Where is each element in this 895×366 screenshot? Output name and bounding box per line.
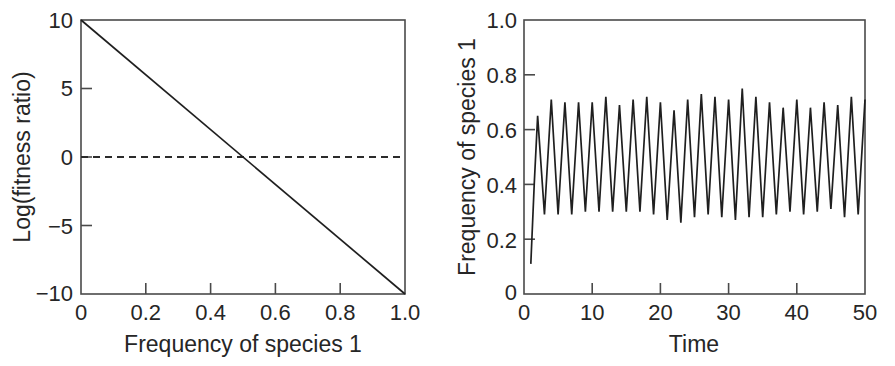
right-x-tickmarks bbox=[592, 283, 797, 294]
figure-two-panel-chart: Log(fitness ratio) 10 5 0 −5 −10 bbox=[0, 0, 895, 366]
left-x-tick-label-04: 0.4 bbox=[195, 300, 226, 325]
left-y-tick-label-0: 0 bbox=[61, 145, 73, 170]
left-y-axis-title: Log(fitness ratio) bbox=[9, 71, 35, 242]
left-x-tick-label-06: 0.6 bbox=[260, 300, 291, 325]
left-y-tick-label-10: 10 bbox=[49, 8, 73, 33]
right-y-axis-title-text: Frequency of species 1 bbox=[454, 38, 480, 276]
right-y-tick-label-08: 0.8 bbox=[486, 63, 517, 88]
left-x-tick-label-08: 0.8 bbox=[325, 300, 356, 325]
left-x-tick-label-0: 0 bbox=[75, 300, 87, 325]
left-y-tick-label-5: 5 bbox=[61, 76, 73, 101]
right-x-tick-label-10: 10 bbox=[580, 300, 604, 325]
right-x-axis-title: Time bbox=[669, 331, 719, 357]
left-x-tick-label-10: 1.0 bbox=[390, 300, 421, 325]
right-x-tick-label-0: 0 bbox=[518, 300, 530, 325]
right-plot-svg: Frequency of species 1 1.0 0.8 0.6 0.4 0… bbox=[447, 0, 895, 366]
right-frequency-oscillation-line bbox=[531, 89, 865, 264]
left-x-axis-title: Frequency of species 1 bbox=[124, 331, 362, 357]
right-y-tick-label-06: 0.6 bbox=[486, 118, 517, 143]
left-x-tick-label-02: 0.2 bbox=[131, 300, 162, 325]
right-y-tick-label-04: 0.4 bbox=[486, 173, 517, 198]
left-plot-svg: Log(fitness ratio) 10 5 0 −5 −10 bbox=[0, 0, 448, 366]
right-x-tick-label-30: 30 bbox=[716, 300, 740, 325]
right-y-axis-title: Frequency of species 1 bbox=[454, 38, 480, 276]
left-x-tickmarks bbox=[146, 283, 340, 294]
right-x-tick-label-50: 50 bbox=[853, 300, 877, 325]
chart-panel-right: Frequency of species 1 1.0 0.8 0.6 0.4 0… bbox=[447, 0, 895, 366]
right-x-tick-label-40: 40 bbox=[785, 300, 809, 325]
chart-panel-left: Log(fitness ratio) 10 5 0 −5 −10 bbox=[0, 0, 448, 366]
left-y-axis-title-text: Log(fitness ratio) bbox=[9, 71, 35, 242]
left-y-tick-label-neg10: −10 bbox=[36, 281, 73, 306]
right-y-tick-label-10: 1.0 bbox=[486, 8, 517, 33]
right-y-tick-label-0: 0 bbox=[505, 280, 517, 305]
right-y-tick-label-02: 0.2 bbox=[486, 228, 517, 253]
left-y-tick-label-neg5: −5 bbox=[48, 214, 73, 239]
right-x-tick-label-20: 20 bbox=[648, 300, 672, 325]
